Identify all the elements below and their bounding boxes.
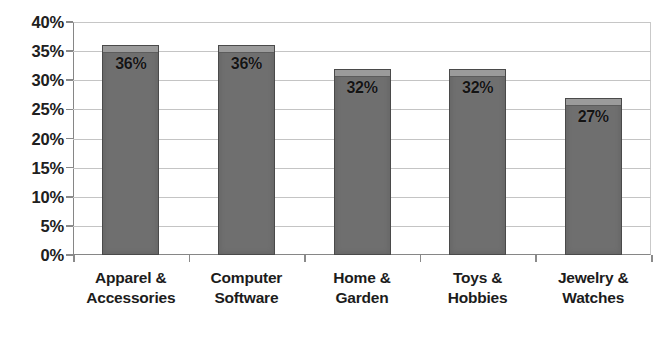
x-axis-tick (535, 255, 537, 262)
category-label-line: Hobbies (420, 288, 536, 308)
y-axis-tick (66, 254, 73, 256)
y-axis-tick-label: 25% (0, 100, 64, 119)
y-axis-tick-label: 35% (0, 42, 64, 61)
y-axis-tick-labels: 40%35%30%25%20%15%10%5%0% (0, 0, 64, 341)
x-axis-tick (304, 255, 306, 262)
bar[interactable]: 32% (334, 69, 391, 255)
bar-chart: 40%35%30%25%20%15%10%5%0% 36%36%32%32%27… (0, 0, 670, 341)
y-axis-tick (66, 50, 73, 52)
x-axis-category-label: ComputerSoftware (189, 268, 305, 308)
bar-value-label: 27% (566, 108, 621, 126)
x-axis-category-label: Jewelry &Watches (535, 268, 651, 308)
bar-top-bevel (566, 99, 621, 106)
plot-area: 36%36%32%32%27% (73, 22, 651, 255)
y-axis-tick-label: 15% (0, 158, 64, 177)
x-axis-tick (189, 255, 191, 262)
x-axis-category-label: Home &Garden (304, 268, 420, 308)
y-axis-tick-label: 10% (0, 187, 64, 206)
x-axis-tick (651, 255, 653, 262)
x-axis-category-labels: Apparel &AccessoriesComputerSoftwareHome… (73, 268, 651, 338)
x-axis-tick (420, 255, 422, 262)
y-axis-tick (66, 225, 73, 227)
bar-top-bevel (450, 70, 505, 77)
y-axis-tick (66, 21, 73, 23)
x-axis-tick (73, 255, 75, 262)
x-axis-category-label: Toys &Hobbies (420, 268, 536, 308)
category-label-line: Toys & (420, 268, 536, 288)
bar-value-label: 36% (219, 55, 274, 73)
bar[interactable]: 27% (565, 98, 622, 255)
category-label-line: Apparel & (73, 268, 189, 288)
y-axis-tick-label: 30% (0, 71, 64, 90)
bar-value-label: 36% (103, 55, 158, 73)
y-axis-tick (66, 167, 73, 169)
category-label-line: Jewelry & (535, 268, 651, 288)
category-label-line: Garden (304, 288, 420, 308)
y-axis-tick-label: 5% (0, 216, 64, 235)
y-axis-tick (66, 109, 73, 111)
y-axis-tick-label: 0% (0, 246, 64, 265)
category-label-line: Home & (304, 268, 420, 288)
bar[interactable]: 32% (449, 69, 506, 255)
x-axis-category-label: Apparel &Accessories (73, 268, 189, 308)
category-label-line: Watches (535, 288, 651, 308)
bar[interactable]: 36% (218, 45, 275, 255)
y-axis-tick (66, 79, 73, 81)
y-axis-tick (66, 138, 73, 140)
bar-top-bevel (103, 46, 158, 53)
category-label-line: Computer (189, 268, 305, 288)
gridline (73, 51, 651, 52)
bar-value-label: 32% (335, 79, 390, 97)
bar[interactable]: 36% (102, 45, 159, 255)
bar-top-bevel (335, 70, 390, 77)
y-axis-tick-label: 20% (0, 129, 64, 148)
category-label-line: Software (189, 288, 305, 308)
bar-value-label: 32% (450, 79, 505, 97)
bar-top-bevel (219, 46, 274, 53)
y-axis-tick-label: 40% (0, 13, 64, 32)
y-axis-tick (66, 196, 73, 198)
category-label-line: Accessories (73, 288, 189, 308)
